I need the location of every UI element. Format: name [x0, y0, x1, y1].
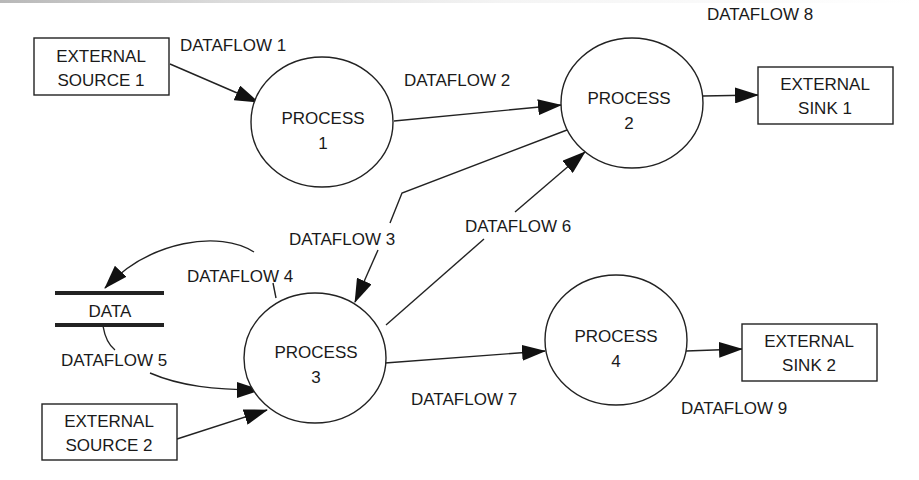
data-store: DATA [55, 293, 164, 325]
process-3-label-line1: PROCESS [274, 343, 357, 362]
dataflow-2-arrow [394, 105, 561, 121]
dataflow-5-label: DATAFLOW 5 [61, 351, 167, 370]
data-flow-diagram: EXTERNAL SOURCE 1 EXTERNAL SINK 1 EXTERN… [0, 0, 919, 480]
external-source-2: EXTERNAL SOURCE 2 [42, 404, 177, 460]
process-4-label-line1: PROCESS [574, 327, 657, 346]
process-4: PROCESS 4 [545, 275, 687, 405]
dataflow-9-arrow [686, 349, 742, 351]
dataflow-1-arrow [170, 64, 258, 102]
dataflow-7-label: DATAFLOW 7 [411, 390, 517, 409]
dataflow-8-arrow [703, 95, 758, 96]
dataflow-3-connector [390, 130, 567, 223]
external-source-1: EXTERNAL SOURCE 1 [34, 38, 169, 95]
process-3: PROCESS 3 [244, 293, 386, 423]
external-source-1-label-line1: EXTERNAL [56, 47, 146, 66]
dataflow-4-label: DATAFLOW 4 [187, 267, 293, 286]
dataflow-5-arrow [150, 373, 260, 390]
external-sink-2-label-line1: EXTERNAL [764, 332, 854, 351]
dataflow-3-arrow [355, 250, 378, 302]
dataflow-6-connector [386, 239, 484, 325]
dataflow-2-label: DATAFLOW 2 [404, 71, 510, 90]
dataflow-9-label: DATAFLOW 9 [681, 399, 787, 418]
dataflow-3-label: DATAFLOW 3 [289, 230, 395, 249]
dataflow-1-label: DATAFLOW 1 [180, 36, 286, 55]
process-1: PROCESS 1 [251, 57, 393, 187]
external-sink-1: EXTERNAL SINK 1 [758, 67, 893, 124]
external-source-2-label-line2: SOURCE 2 [66, 436, 153, 455]
external-source-2-label-line1: EXTERNAL [64, 412, 154, 431]
external-source-2-arrow [177, 410, 267, 439]
external-source-1-label-line2: SOURCE 1 [58, 71, 145, 90]
external-sink-1-label-line1: EXTERNAL [780, 75, 870, 94]
data-store-label: DATA [89, 302, 132, 321]
process-2-label-line2: 2 [624, 114, 633, 133]
process-2-label-line1: PROCESS [587, 89, 670, 108]
process-2: PROCESS 2 [561, 38, 703, 168]
dataflow-5-connector [103, 326, 115, 350]
external-sink-1-label-line2: SINK 1 [798, 99, 852, 118]
process-1-label-line2: 1 [318, 134, 327, 153]
dataflow-8-label: DATAFLOW 8 [707, 5, 813, 24]
process-3-label-line2: 3 [311, 368, 320, 387]
process-1-label-line1: PROCESS [281, 109, 364, 128]
external-sink-2-label-line2: SINK 2 [782, 356, 836, 375]
dataflow-7-arrow [385, 351, 545, 363]
external-sink-2: EXTERNAL SINK 2 [742, 324, 877, 381]
process-4-label-line2: 4 [611, 352, 620, 371]
dataflow-6-arrow [515, 152, 585, 212]
dataflow-6-label: DATAFLOW 6 [465, 217, 571, 236]
